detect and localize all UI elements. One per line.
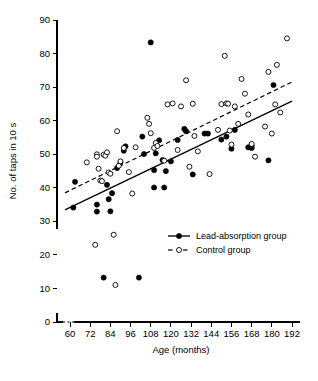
data-point-control <box>121 145 126 150</box>
legend-label: Control group <box>196 245 251 255</box>
data-point-lead <box>219 137 224 142</box>
y-tick-label: 30 <box>39 215 50 226</box>
x-tick-label: 168 <box>244 328 260 339</box>
x-tick-label: 60 <box>65 328 76 339</box>
data-point-lead <box>108 209 113 214</box>
data-point-control <box>105 150 110 155</box>
data-point-control <box>242 91 247 96</box>
data-point-control <box>94 154 99 159</box>
y-tick-label: 40 <box>39 182 50 193</box>
data-point-control <box>175 147 180 152</box>
data-point-control <box>155 143 160 148</box>
data-point-control <box>269 131 274 136</box>
data-point-control <box>96 166 101 171</box>
data-point-control <box>133 145 138 150</box>
data-point-control <box>263 124 268 129</box>
x-tick-label: 72 <box>85 328 96 339</box>
data-point-control <box>170 101 175 106</box>
x-tick-label: 108 <box>143 328 159 339</box>
data-point-control <box>222 53 227 58</box>
data-point-control <box>115 129 120 134</box>
y-tick-label: 90 <box>39 14 50 25</box>
x-tick-label: 192 <box>284 328 300 339</box>
x-tick-label: 84 <box>105 328 116 339</box>
x-axis-title: Age (months) <box>152 344 209 355</box>
data-point-lead <box>106 197 111 202</box>
data-point-control <box>145 115 150 120</box>
data-point-control <box>179 104 184 109</box>
data-point-lead <box>232 127 237 132</box>
data-point-control <box>273 102 278 107</box>
data-point-control <box>108 171 113 176</box>
x-tick-label: 144 <box>203 328 219 339</box>
data-point-lead <box>271 82 276 87</box>
data-point-control <box>207 172 212 177</box>
legend-label: Lead-absorption group <box>196 231 287 241</box>
data-point-lead <box>151 167 156 172</box>
data-point-lead <box>162 185 167 190</box>
data-point-control <box>253 154 258 159</box>
x-tick-label: 120 <box>163 328 179 339</box>
data-point-control <box>236 121 241 126</box>
y-tick-label: 60 <box>39 115 50 126</box>
data-point-lead <box>104 182 109 187</box>
data-point-control <box>246 112 251 117</box>
data-point-control <box>266 69 271 74</box>
data-point-lead <box>101 275 106 280</box>
axes-layer: 0102030405060708090607284961081201321441… <box>39 14 300 339</box>
data-point-lead <box>109 191 114 196</box>
y-tick-label: 80 <box>39 48 50 59</box>
data-point-control <box>249 141 254 146</box>
y-tick-label: 70 <box>39 81 50 92</box>
legend-item: Control group <box>168 245 251 255</box>
data-point-control <box>195 149 200 154</box>
data-point-control <box>113 282 118 287</box>
data-point-control <box>184 78 189 83</box>
data-point-control <box>216 127 221 132</box>
legend-item: Lead-absorption group <box>168 231 287 241</box>
data-point-lead <box>141 151 146 156</box>
data-point-control <box>284 36 289 41</box>
data-point-control <box>126 170 131 175</box>
data-point-control <box>165 102 170 107</box>
data-point-control <box>274 62 279 67</box>
data-point-control <box>227 128 232 133</box>
y-tick-label: 10 <box>39 283 50 294</box>
data-point-lead <box>140 134 145 139</box>
x-tick-label: 180 <box>264 328 280 339</box>
legend-marker-open-circle <box>177 248 182 253</box>
y-axis-title: No. of taps in 10 s <box>7 122 18 199</box>
data-point-control <box>111 232 116 237</box>
y-tick-label: 0 <box>45 316 50 327</box>
data-point-control <box>99 179 104 184</box>
data-point-control <box>147 121 152 126</box>
scatter-chart: 0102030405060708090607284961081201321441… <box>0 0 318 381</box>
data-point-lead <box>94 209 99 214</box>
data-point-control <box>148 131 153 136</box>
legend-marker-filled-circle <box>176 233 181 238</box>
data-point-control <box>219 102 224 107</box>
x-tick-label: 132 <box>183 328 199 339</box>
data-point-lead <box>136 275 141 280</box>
data-point-lead <box>151 185 156 190</box>
trend-lines-layer <box>65 82 292 210</box>
data-point-lead <box>148 40 153 45</box>
data-point-lead <box>71 205 76 210</box>
data-point-control <box>226 101 231 106</box>
data-point-control <box>84 160 89 165</box>
data-point-control <box>278 110 283 115</box>
data-point-control <box>190 101 195 106</box>
data-point-lead <box>224 134 229 139</box>
data-point-control <box>239 76 244 81</box>
data-point-control <box>162 158 167 163</box>
plot-canvas: 0102030405060708090607284961081201321441… <box>0 0 318 381</box>
y-tick-label: 20 <box>39 249 50 260</box>
data-point-lead <box>153 151 158 156</box>
data-point-lead <box>266 158 271 163</box>
y-tick-label: 50 <box>39 148 50 159</box>
data-point-control <box>130 191 135 196</box>
data-point-control <box>229 142 234 147</box>
data-point-control <box>232 104 237 109</box>
data-point-control <box>93 242 98 247</box>
data-point-lead <box>163 168 168 173</box>
